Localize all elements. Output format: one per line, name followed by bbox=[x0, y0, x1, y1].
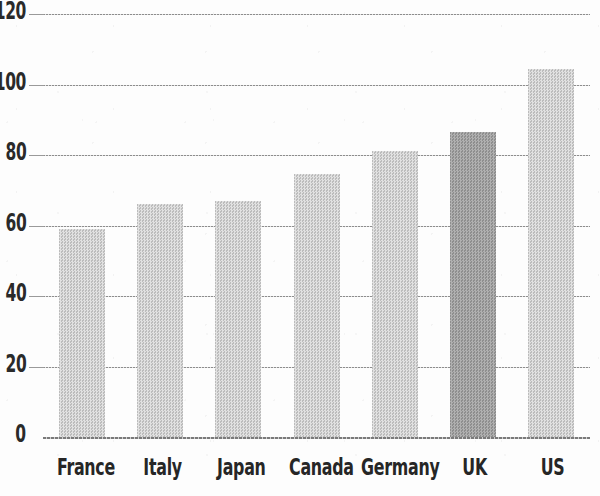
y-tick-mark bbox=[29, 85, 44, 86]
y-tick-mark bbox=[29, 296, 44, 297]
y-tick-label-40: 40 bbox=[5, 281, 26, 306]
bar-uk[interactable] bbox=[450, 132, 496, 437]
bar-fill bbox=[528, 69, 574, 437]
bar-fill bbox=[372, 151, 418, 437]
plot-area: 020406080100120 bbox=[43, 14, 590, 437]
y-tick-mark bbox=[29, 367, 44, 368]
y-tick-mark bbox=[29, 155, 44, 156]
y-tick-label-100: 100 bbox=[0, 70, 26, 95]
bar-fill bbox=[450, 132, 496, 437]
bar-us[interactable] bbox=[528, 69, 574, 437]
y-tick-label-80: 80 bbox=[5, 140, 26, 165]
x-tick-label-uk: UK bbox=[462, 455, 487, 478]
bar-fill bbox=[215, 201, 261, 437]
bar-canada[interactable] bbox=[294, 174, 340, 437]
bar-germany[interactable] bbox=[372, 151, 418, 437]
bar-france[interactable] bbox=[59, 229, 105, 437]
bar-series bbox=[43, 14, 590, 437]
y-tick-mark bbox=[29, 226, 44, 227]
y-tick-label-0: 0 bbox=[16, 422, 26, 447]
x-axis-tick-labels: FranceItalyJapanCanadaGermanyUKUS bbox=[43, 455, 590, 489]
x-tick-label-canada: Canada bbox=[289, 455, 354, 478]
bar-japan[interactable] bbox=[215, 201, 261, 437]
bar-fill bbox=[294, 174, 340, 437]
y-tick-label-20: 20 bbox=[5, 352, 26, 377]
bar-fill bbox=[59, 229, 105, 437]
y-tick-label-120: 120 bbox=[0, 0, 26, 24]
y-tick-label-60: 60 bbox=[5, 211, 26, 236]
x-tick-label-japan: Japan bbox=[217, 455, 266, 478]
x-axis-baseline bbox=[43, 437, 590, 439]
x-tick-label-france: France bbox=[57, 455, 115, 478]
x-tick-label-us: US bbox=[541, 455, 565, 478]
bar-chart: 020406080100120 FranceItalyJapanCanadaGe… bbox=[0, 0, 600, 496]
bar-fill bbox=[137, 204, 183, 437]
x-tick-label-italy: Italy bbox=[144, 455, 183, 478]
x-tick-label-germany: Germany bbox=[361, 455, 439, 478]
y-tick-mark bbox=[29, 14, 44, 15]
bar-italy[interactable] bbox=[137, 204, 183, 437]
